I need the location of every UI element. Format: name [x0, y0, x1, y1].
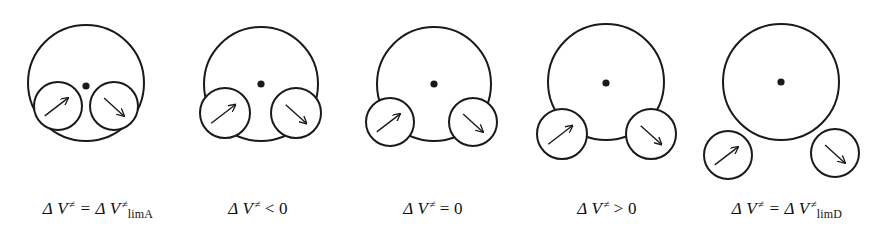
panel-2 — [200, 27, 321, 141]
label-panel-5-mid: = Δ V — [764, 199, 809, 218]
label-panel-3: Δ V≠ = 0 — [403, 198, 463, 219]
panel-1 — [28, 25, 144, 141]
center-dot — [257, 80, 264, 87]
small-circle-right — [90, 82, 138, 130]
center-dot — [430, 80, 437, 87]
center-dot — [777, 78, 784, 85]
label-panel-5-sub: limD — [817, 207, 842, 221]
small-circle-right — [449, 98, 497, 146]
label-panel-2: Δ V≠ < 0 — [228, 198, 288, 219]
panel-5 — [704, 24, 859, 179]
panel-4 — [537, 24, 676, 159]
label-panel-3-mid: = 0 — [435, 199, 462, 218]
label-panel-1-mid: = Δ V — [75, 199, 120, 218]
center-dot — [82, 82, 89, 89]
label-panel-4-mid: > 0 — [609, 199, 636, 218]
small-circle-right — [626, 109, 676, 159]
label-panel-1-sub: limA — [128, 207, 153, 221]
small-circle-right — [811, 129, 859, 177]
label-panel-2-lhs: Δ V — [228, 199, 253, 218]
label-panel-5-lhs: Δ V — [732, 199, 757, 218]
label-panel-4: Δ V≠ > 0 — [577, 198, 637, 219]
label-panel-2-mid: < 0 — [260, 199, 287, 218]
center-dot — [602, 79, 609, 86]
small-circle-right — [271, 88, 321, 138]
label-panel-1-lhs: Δ V — [43, 199, 68, 218]
label-panel-3-lhs: Δ V — [403, 199, 428, 218]
label-panel-5: Δ V≠ = Δ V≠limD — [732, 198, 842, 222]
panel-3 — [366, 27, 497, 146]
label-panel-1: Δ V≠ = Δ V≠limA — [43, 198, 153, 222]
label-panel-4-lhs: Δ V — [577, 199, 602, 218]
